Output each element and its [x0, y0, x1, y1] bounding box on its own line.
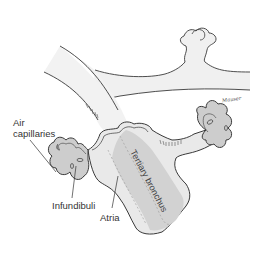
label-infundibuli: Infundibuli	[52, 200, 95, 211]
label-air-capillaries-line2: capillaries	[13, 128, 55, 139]
label-atria: Atria	[100, 212, 120, 223]
label-air-capillaries-line1: Air	[13, 117, 55, 128]
left-infundibulum	[48, 137, 88, 179]
label-air-capillaries: Air capillaries	[13, 117, 55, 139]
upper-branch	[92, 28, 250, 104]
upper-infundibulum	[180, 28, 216, 62]
